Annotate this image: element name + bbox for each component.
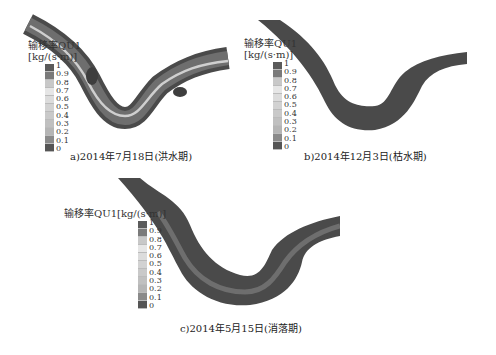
swatch-0.7 — [138, 245, 147, 253]
swatch-0.3 — [138, 277, 147, 285]
legend-title-line2: [kg/(s·m)] — [28, 51, 81, 62]
swatch-0.9 — [138, 229, 147, 237]
swatch-0.6 — [273, 94, 282, 102]
colorbar-ticks: 1 0.9 0.8 0.7 0.6 0.5 0.4 0.3 0.2 0.1 0 — [284, 60, 297, 151]
panel-a: 输移率QU1 [kg/(s·m)] 1 0.9 0.8 0.7 — [0, 0, 240, 170]
colorbar-ticks: 1 0.9 0.8 0.7 0.6 0.5 0.4 0.3 0.2 0.1 0 — [149, 219, 162, 310]
tick-label: 0 — [149, 302, 162, 310]
caption-b: b)2014年12月3日(枯水期) — [304, 148, 427, 163]
swatch-0.5 — [273, 102, 282, 110]
swatch-0 — [45, 144, 54, 152]
swatch-0.3 — [45, 120, 54, 128]
colorbar-ticks: 1 0.9 0.8 0.7 0.6 0.5 0.4 0.3 0.2 0.1 0 — [56, 62, 69, 153]
swatch-0 — [273, 142, 282, 150]
legend-b: 输移率QU1 [kg/(s·m)] 1 0.9 0.8 0.7 — [244, 38, 297, 62]
swatch-1 — [45, 64, 54, 72]
legend-title-line2: [kg/(s·m)] — [244, 49, 297, 60]
caption-a: a)2014年7月18日(洪水期) — [70, 148, 192, 163]
swatch-0.8 — [138, 237, 147, 245]
swatch-0.1 — [138, 293, 147, 301]
swatch-0.9 — [273, 70, 282, 78]
swatch-0.1 — [45, 136, 54, 144]
legend-a: 输移率QU1 [kg/(s·m)] 1 0.9 0.8 0.7 — [28, 40, 81, 64]
swatch-0.7 — [273, 86, 282, 94]
swatch-0.7 — [45, 88, 54, 96]
swatch-1 — [273, 62, 282, 70]
swatch-0.8 — [273, 78, 282, 86]
swatch-0.9 — [45, 72, 54, 80]
swatch-0 — [138, 301, 147, 309]
swatch-0.1 — [273, 134, 282, 142]
swatch-0.5 — [45, 104, 54, 112]
swatch-0.6 — [138, 253, 147, 261]
swatch-0.2 — [273, 126, 282, 134]
swatch-0.3 — [273, 118, 282, 126]
river-map-a — [0, 0, 240, 170]
swatch-1 — [138, 221, 147, 229]
caption-c: c)2014年5月15日(消落期) — [180, 320, 302, 335]
legend-title-line1: 输移率QU1 — [28, 40, 81, 51]
tick-label: 0 — [284, 143, 297, 151]
legend-title-line1: 输移率QU1 — [244, 38, 297, 49]
swatch-0.8 — [45, 80, 54, 88]
swatch-0.4 — [138, 269, 147, 277]
tick-label: 0 — [56, 145, 69, 153]
swatch-0.4 — [273, 110, 282, 118]
swatch-0.5 — [138, 261, 147, 269]
legend-c: 输移率QU1[kg/(s·m)] 1 0.9 0.8 0.7 0.6 — [64, 208, 166, 221]
swatch-0.2 — [138, 285, 147, 293]
swatch-0.6 — [45, 96, 54, 104]
swatch-0.2 — [45, 128, 54, 136]
panel-b: 输移率QU1 [kg/(s·m)] 1 0.9 0.8 0.7 — [240, 0, 496, 170]
panel-c: 输移率QU1[kg/(s·m)] 1 0.9 0.8 0.7 0.6 — [40, 170, 340, 355]
swatch-0.4 — [45, 112, 54, 120]
